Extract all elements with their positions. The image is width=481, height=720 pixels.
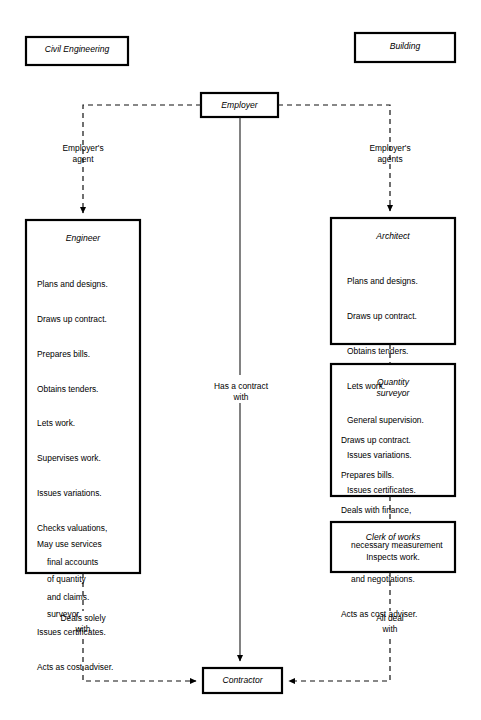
node-title-quantity-surveyor-line1: Quantity xyxy=(331,377,455,388)
duty-item: Obtains tenders. xyxy=(347,346,457,358)
edge-label-deals-solely-line1: Deals solely xyxy=(38,613,128,624)
column-header-label-civil-engineering: Civil Engineering xyxy=(26,44,128,55)
duty-item: Obtains tenders. xyxy=(37,384,143,396)
duty-item-cont: and negotiations. xyxy=(341,574,455,586)
edge-label-employers-agent-left-line1: Employer's xyxy=(38,143,128,154)
duty-item: Draws up contract. xyxy=(341,435,455,447)
node-duties-quantity-surveyor: Draws up contract. Prepares bills. Deals… xyxy=(341,412,455,644)
edge-label-has-a-contract-line2: with xyxy=(196,392,286,403)
duty-item: Issues variations. xyxy=(37,488,143,500)
duty-item: Draws up contract. xyxy=(37,314,143,326)
duty-item: Deals with finance, xyxy=(341,505,455,517)
edge-label-deals-solely-line2: with xyxy=(38,624,128,635)
edge-label-employers-agents-right-line1: Employer's xyxy=(345,143,435,154)
footer-item: May use services xyxy=(37,539,143,551)
duty-item: Prepares bills. xyxy=(37,349,143,361)
node-label-employer: Employer xyxy=(201,100,278,111)
edge-label-has-a-contract-line1: Has a contract xyxy=(196,381,286,392)
node-duties-clerk-of-works: Inspects work. xyxy=(331,552,455,564)
duty-item: Lets work. xyxy=(37,418,143,430)
node-title-architect: Architect xyxy=(331,231,455,242)
duty-item: Supervises work. xyxy=(37,453,143,465)
relationship-diagram: Civil Engineering Building Employer Empl… xyxy=(0,0,481,720)
duty-item: Prepares bills. xyxy=(341,470,455,482)
duty-item: Plans and designs. xyxy=(37,279,143,291)
node-title-quantity-surveyor-line2: surveyor xyxy=(331,388,455,399)
edge-label-employers-agents-right-line2: agents xyxy=(345,154,435,165)
footer-item-cont: of quantity xyxy=(37,574,143,586)
edge-label-all-deal-line1: All deal xyxy=(345,613,435,624)
duty-item: Draws up contract. xyxy=(347,311,457,323)
node-title-clerk-of-works: Clerk of works xyxy=(331,532,455,543)
duty-item: Acts as cost adviser. xyxy=(37,662,143,674)
edge-label-employers-agent-left-line2: agent xyxy=(38,154,128,165)
connector-clerk-of-works-to-contractor-lower xyxy=(289,639,390,681)
column-header-label-building: Building xyxy=(355,41,455,52)
node-title-engineer: Engineer xyxy=(26,233,140,244)
node-label-contractor: Contractor xyxy=(203,675,282,686)
edge-label-all-deal-line2: with xyxy=(345,624,435,635)
duty-item: Plans and designs. xyxy=(347,276,457,288)
